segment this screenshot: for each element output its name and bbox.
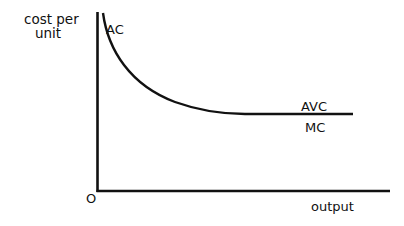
- x-axis-label: output: [311, 199, 354, 214]
- origin-label: O: [86, 191, 96, 206]
- avc-label: AVC: [301, 99, 327, 114]
- ac-label: AC: [106, 22, 124, 37]
- mc-label: MC: [305, 120, 325, 135]
- y-axis-label-line2: unit: [35, 25, 61, 41]
- cost-curve-chart: cost per unit AC AVC MC O output: [0, 0, 404, 226]
